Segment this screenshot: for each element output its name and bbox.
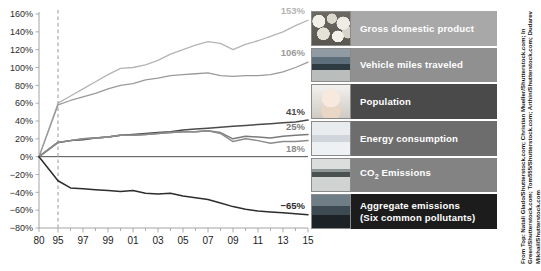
co2-thumbnail <box>311 158 351 193</box>
x-axis-label: 07 <box>202 235 214 246</box>
x-axis-label: 99 <box>102 235 114 246</box>
legend-label-co2: CO2 Emissions <box>360 167 431 182</box>
y-axis-label: −60% <box>10 205 33 215</box>
baby-thumbnail <box>311 84 351 119</box>
y-axis-label: −80% <box>10 223 33 233</box>
legend-label-aggregate: Aggregate emissions (Six common pollutan… <box>360 200 475 223</box>
y-axis-label: 0% <box>20 152 33 162</box>
legend-bar-energy: Energy consumption <box>351 121 497 156</box>
y-axis-label: 160% <box>10 9 33 19</box>
y-axis-label: 40% <box>15 116 33 126</box>
legend-panel: Gross domestic product Vehicle miles tra… <box>311 11 497 231</box>
legend-item-gross-domestic-product[interactable]: Gross domestic product <box>311 11 497 46</box>
legend-bar-co2: CO2 Emissions <box>351 158 497 193</box>
x-axis-label: 13 <box>277 235 289 246</box>
legend-label-aggregate-line2: (Six common pollutants) <box>360 212 475 223</box>
y-axis-label: −20% <box>10 170 33 180</box>
x-axis-label: 01 <box>127 235 139 246</box>
legend-item-energy-consumption[interactable]: Energy consumption <box>311 121 497 156</box>
y-axis-label: 100% <box>10 63 33 73</box>
legend-item-aggregate-emissions[interactable]: Aggregate emissions (Six common pollutan… <box>311 194 497 229</box>
series-end-label-0: 153% <box>281 5 306 16</box>
series-end-label-3: 25% <box>286 121 306 132</box>
legend-label-aggregate-line1: Aggregate emissions <box>360 200 460 211</box>
x-axis-label: 15 <box>302 235 314 246</box>
photo-credit: From Top: Natali Glado/Shutterstock.com;… <box>497 0 526 271</box>
legend-item-co2-emissions[interactable]: CO2 Emissions <box>311 158 497 193</box>
vehicle-thumbnail <box>311 48 351 83</box>
legend-label-gdp: Gross domestic product <box>360 23 474 34</box>
x-axis-label: 80 <box>33 235 45 246</box>
skyline-thumbnail <box>311 194 351 229</box>
x-axis-label: 03 <box>152 235 164 246</box>
legend-item-vehicle-miles-traveled[interactable]: Vehicle miles traveled <box>311 48 497 83</box>
y-axis-label: 60% <box>15 98 33 108</box>
y-axis-label: 120% <box>10 45 33 55</box>
legend-bar-vmt: Vehicle miles traveled <box>351 48 497 83</box>
legend-bar-gdp: Gross domestic product <box>351 11 497 46</box>
legend-label-energy: Energy consumption <box>360 133 458 144</box>
photo-credit-text: From Top: Natali Glado/Shutterstock.com;… <box>519 2 541 264</box>
series-line-4 <box>39 131 308 157</box>
legend-label-co2-rest: Emissions <box>379 167 431 178</box>
series-line-5 <box>39 157 308 215</box>
energy-thumbnail <box>311 121 351 156</box>
x-axis-label: 95 <box>52 235 64 246</box>
y-axis-label: 80% <box>15 81 33 91</box>
series-end-label-2: 41% <box>286 106 306 117</box>
y-axis-label: 140% <box>10 27 33 37</box>
x-axis-label: 09 <box>227 235 239 246</box>
legend-label-population: Population <box>360 96 411 107</box>
series-end-label-5: −65% <box>280 200 305 211</box>
chart-svg: 160%140%120%100%80%60%40%20%0%−20%−40%−6… <box>0 0 320 271</box>
x-axis-label: 97 <box>77 235 89 246</box>
x-axis-label: 05 <box>177 235 189 246</box>
y-axis-label: −40% <box>10 188 33 198</box>
series-line-3 <box>39 131 308 157</box>
series-line-0 <box>39 20 308 156</box>
legend-bar-population: Population <box>351 84 497 119</box>
gdp-thumbnail <box>311 11 351 46</box>
legend-label-vmt: Vehicle miles traveled <box>360 59 463 70</box>
series-end-label-1: 106% <box>281 47 306 58</box>
legend-item-population[interactable]: Population <box>311 84 497 119</box>
series-end-label-4: 18% <box>286 143 306 154</box>
line-chart: 160%140%120%100%80%60%40%20%0%−20%−40%−6… <box>0 0 320 271</box>
legend-bar-aggregate: Aggregate emissions (Six common pollutan… <box>351 194 497 229</box>
y-axis-label: 20% <box>15 134 33 144</box>
legend-label-co2-main: CO <box>360 167 375 178</box>
x-axis-label: 11 <box>253 235 264 246</box>
